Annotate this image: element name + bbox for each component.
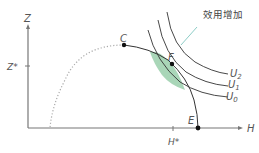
indifference-curve-u2 bbox=[167, 12, 228, 74]
point-f-label: F bbox=[168, 52, 174, 63]
dotted-arc bbox=[50, 45, 124, 128]
h-axis-label: H bbox=[247, 123, 255, 134]
u0-label: U0 bbox=[226, 91, 238, 104]
utility-diagram: Z H Z* H* C F E U2 U1 U0 效用增加 bbox=[0, 0, 259, 153]
point-e-label: E bbox=[188, 115, 195, 126]
point-e bbox=[196, 126, 201, 131]
z-axis-label: Z bbox=[23, 13, 32, 24]
h-axis-arrow-icon bbox=[238, 126, 243, 130]
utility-increase-label: 效用增加 bbox=[203, 9, 243, 20]
h-star-label: H* bbox=[168, 137, 180, 147]
z-star-label: Z* bbox=[6, 62, 18, 72]
z-axis-arrow-icon bbox=[26, 24, 30, 29]
point-c-label: C bbox=[120, 33, 127, 44]
utility-increase-line bbox=[181, 27, 197, 45]
